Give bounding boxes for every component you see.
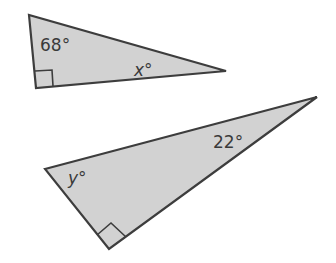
angle-label-y: y°	[67, 168, 87, 188]
triangle-1: 68° x°	[29, 15, 226, 88]
angle-label-68: 68°	[40, 35, 70, 55]
angle-label-22: 22°	[213, 132, 243, 152]
angle-label-x: x°	[133, 60, 153, 80]
triangle-2: 22° y°	[45, 97, 317, 249]
triangles-diagram: 68° x° 22° y°	[0, 0, 336, 263]
